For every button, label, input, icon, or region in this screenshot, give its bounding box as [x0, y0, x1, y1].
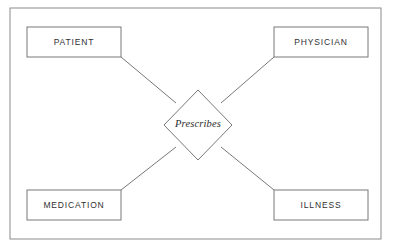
entity-patient[interactable]: PATIENT [27, 27, 121, 57]
entity-illness[interactable]: ILLNESS [274, 190, 368, 220]
er-diagram-svg: PATIENT PHYSICIAN MEDICATION ILLNESS Pre… [0, 0, 395, 249]
connector-medication-prescribes [121, 147, 176, 190]
entity-physician[interactable]: PHYSICIAN [274, 27, 368, 57]
entity-medication[interactable]: MEDICATION [27, 190, 121, 220]
connector-physician-prescribes [221, 57, 274, 103]
entity-medication-label: MEDICATION [43, 200, 104, 210]
relationship-prescribes[interactable]: Prescribes [164, 90, 232, 160]
relationship-prescribes-label: Prescribes [174, 118, 221, 129]
connector-illness-prescribes [221, 147, 274, 190]
entity-physician-label: PHYSICIAN [294, 37, 347, 47]
connector-patient-prescribes [121, 57, 176, 103]
er-diagram-canvas: PATIENT PHYSICIAN MEDICATION ILLNESS Pre… [0, 0, 395, 249]
entity-illness-label: ILLNESS [301, 200, 342, 210]
entity-patient-label: PATIENT [54, 37, 95, 47]
